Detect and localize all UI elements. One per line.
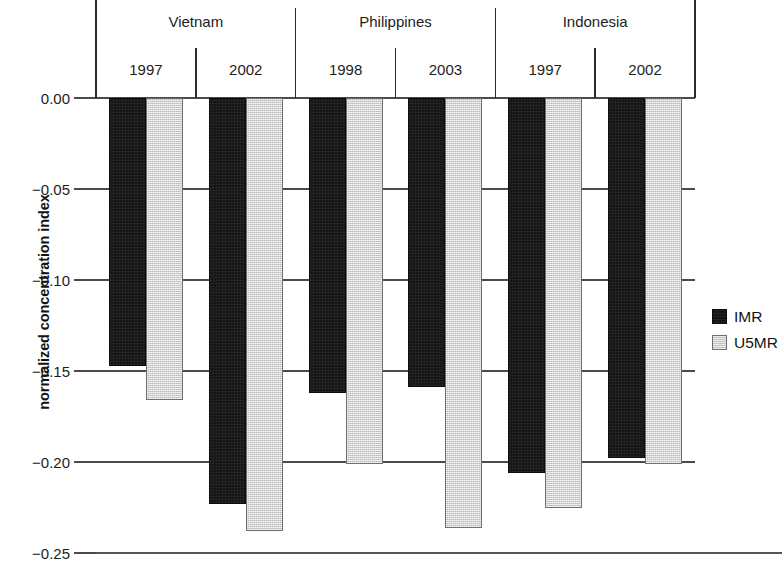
bar-u5mr-indonesia-2002 — [645, 98, 682, 464]
y-axis-tick — [74, 461, 96, 462]
y-axis-tick — [74, 552, 96, 553]
bar-imr-indonesia-2002 — [608, 98, 645, 458]
y-axis-tick — [74, 279, 96, 280]
country-label: Indonesia — [495, 8, 695, 46]
y-axis-tick-label: −0.15 — [0, 363, 70, 380]
year-label: 2002 — [196, 48, 296, 98]
legend-item: IMR — [712, 305, 778, 328]
bar-imr-vietnam-2002 — [209, 98, 246, 504]
bar-u5mr-vietnam-2002 — [246, 98, 283, 531]
black-square-icon — [712, 309, 727, 324]
country-label-row: VietnamPhilippinesIndonesia — [96, 8, 695, 46]
y-axis-tick-label: −0.05 — [0, 181, 70, 198]
y-axis-tick-label: −0.25 — [0, 545, 70, 562]
y-axis-tick-label: 0.00 — [0, 90, 70, 107]
country-divider — [694, 8, 696, 98]
legend-label: U5MR — [734, 334, 778, 352]
y-axis-tick-label: −0.20 — [0, 454, 70, 471]
y-axis-tick — [74, 370, 96, 371]
year-label: 1997 — [96, 48, 196, 98]
bar-u5mr-indonesia-1997 — [545, 98, 582, 508]
country-label: Philippines — [296, 8, 496, 46]
bar-u5mr-vietnam-1997 — [146, 98, 183, 400]
bar-chart: normalized concentration index 0.00−0.05… — [0, 0, 782, 563]
bar-u5mr-philippines-2003 — [445, 98, 482, 528]
year-label: 1998 — [296, 48, 396, 98]
bar-imr-philippines-1998 — [309, 98, 346, 393]
country-divider — [495, 8, 497, 98]
year-label: 1997 — [495, 48, 595, 98]
plot-area — [96, 98, 695, 553]
bar-imr-philippines-2003 — [408, 98, 445, 387]
country-label: Vietnam — [96, 8, 296, 46]
gray-square-icon — [712, 335, 727, 350]
y-axis-tick — [74, 97, 96, 98]
year-label: 2003 — [395, 48, 495, 98]
y-axis-tick-label: −0.10 — [0, 272, 70, 289]
legend-item: U5MR — [712, 331, 778, 354]
country-divider — [95, 8, 97, 98]
y-axis-tick — [74, 188, 96, 189]
legend: IMRU5MR — [712, 305, 778, 357]
year-divider — [195, 48, 196, 98]
bar-imr-vietnam-1997 — [109, 98, 146, 366]
year-divider — [594, 48, 595, 98]
legend-label: IMR — [734, 308, 762, 326]
bar-imr-indonesia-1997 — [508, 98, 545, 473]
year-label: 2002 — [595, 48, 695, 98]
country-divider — [295, 8, 297, 98]
year-divider — [395, 48, 396, 98]
bar-u5mr-philippines-1998 — [346, 98, 383, 464]
